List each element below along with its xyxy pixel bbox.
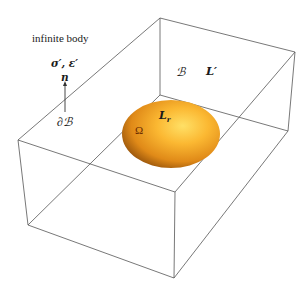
edge-front-bottom bbox=[28, 225, 174, 278]
edge-front-left-vertical bbox=[18, 140, 28, 225]
inclusion-stiffness-sub: r bbox=[167, 115, 171, 124]
edge-front-right-vertical bbox=[174, 192, 175, 278]
far-field-label: σ′, ε′ bbox=[51, 58, 78, 69]
inclusion-domain-label: Ω bbox=[135, 125, 143, 136]
edge-back-top bbox=[160, 18, 295, 52]
edge-back-right-vertical bbox=[288, 52, 295, 131]
inclusion-stiffness-label: Lr bbox=[159, 110, 170, 123]
body-stiffness-label: L′ bbox=[206, 66, 217, 78]
box-wireframe bbox=[0, 0, 307, 295]
body-label: ℬ bbox=[176, 66, 185, 78]
normal-arrow bbox=[63, 81, 67, 112]
infinite-body-label: infinite body bbox=[32, 33, 89, 44]
inclusion-stiffness-base: L bbox=[159, 109, 167, 122]
diagram-canvas: infinite body σ′, ε′ n ∂ℬ ℬ L′ Lr Ω bbox=[0, 0, 307, 295]
boundary-label: ∂ℬ bbox=[57, 116, 72, 128]
normal-label: n bbox=[61, 72, 69, 83]
